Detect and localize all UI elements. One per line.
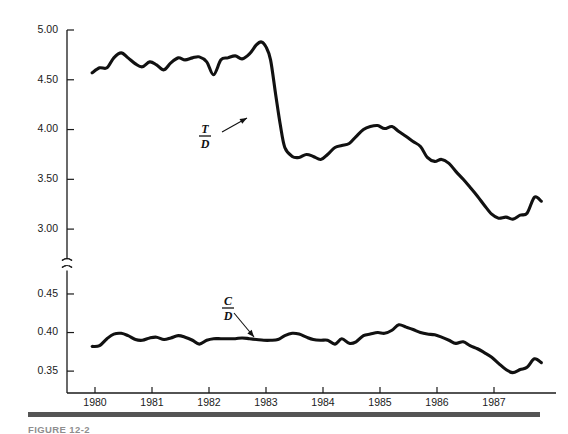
x-tick-label: 1987 [482, 396, 506, 408]
x-tick-label: 1986 [425, 396, 449, 408]
td-label-arrow-head [240, 118, 247, 124]
chart-canvas: 3.003.504.004.505.000.350.400.4519801981… [0, 0, 568, 434]
x-tick-label: 1982 [197, 396, 221, 408]
series-line-t-d [92, 42, 541, 219]
td-label-denominator: D [200, 137, 210, 151]
y-tick-label-lower: 0.45 [38, 287, 59, 299]
td-label-numerator: T [201, 122, 209, 136]
x-tick-label: 1984 [311, 396, 335, 408]
figure-caption: FIGURE 12-2 [28, 424, 90, 434]
annotation-layer: TDCD [199, 118, 254, 337]
cd-label: CD [222, 294, 254, 337]
x-tick-label: 1985 [368, 396, 392, 408]
series-layer [92, 42, 541, 373]
y-tick-label-upper: 4.00 [38, 122, 59, 134]
x-tick-label: 1981 [140, 396, 164, 408]
y-tick-label-upper: 4.50 [38, 73, 59, 85]
y-tick-label-upper: 3.50 [38, 172, 59, 184]
figure-container: 3.003.504.004.505.000.350.400.4519801981… [0, 0, 568, 434]
y-tick-label-upper: 5.00 [38, 23, 59, 35]
y-tick-label-upper: 3.00 [38, 222, 59, 234]
series-line-c-d [92, 325, 541, 373]
cd-label-denominator: D [223, 309, 233, 323]
cd-label-numerator: C [224, 294, 233, 308]
x-tick-label: 1980 [83, 396, 107, 408]
y-tick-label-lower: 0.40 [38, 325, 59, 337]
axis-break-symbol [62, 259, 72, 271]
caption-divider-rule [28, 412, 540, 417]
td-label: TD [199, 118, 247, 151]
y-tick-label-lower: 0.35 [38, 364, 59, 376]
x-tick-label: 1983 [254, 396, 278, 408]
